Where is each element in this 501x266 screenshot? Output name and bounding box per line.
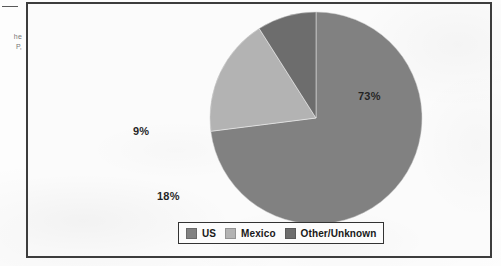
margin-note-line-2: P,	[16, 43, 22, 50]
legend-label-mexico: Mexico	[241, 228, 276, 239]
legend-item-other-unknown: Other/Unknown	[285, 228, 377, 239]
legend-item-us: US	[186, 228, 216, 239]
legend-item-mexico: Mexico	[225, 228, 276, 239]
pie-label-other-unknown: 9%	[133, 125, 149, 137]
pie-slices	[210, 12, 422, 224]
legend-swatch-us-icon	[186, 228, 197, 239]
pie-label-us: 73%	[358, 90, 381, 102]
legend-label-us: US	[202, 228, 216, 239]
scanned-page: heP, 73% 9% 18% US Mexico Other/Unknown	[0, 0, 501, 266]
margin-note-text: heP,	[0, 32, 25, 51]
page-left-margin: heP,	[0, 0, 26, 266]
pie-label-mexico: 18%	[157, 190, 180, 202]
legend-swatch-mexico-icon	[225, 228, 236, 239]
legend-swatch-other-unknown-icon	[285, 228, 296, 239]
margin-rule	[2, 6, 18, 7]
margin-note-line-1: he	[14, 33, 22, 40]
legend-label-other-unknown: Other/Unknown	[301, 228, 377, 239]
chart-legend: US Mexico Other/Unknown	[178, 222, 384, 244]
pie-chart-svg	[209, 11, 423, 225]
pie-chart	[209, 11, 423, 225]
